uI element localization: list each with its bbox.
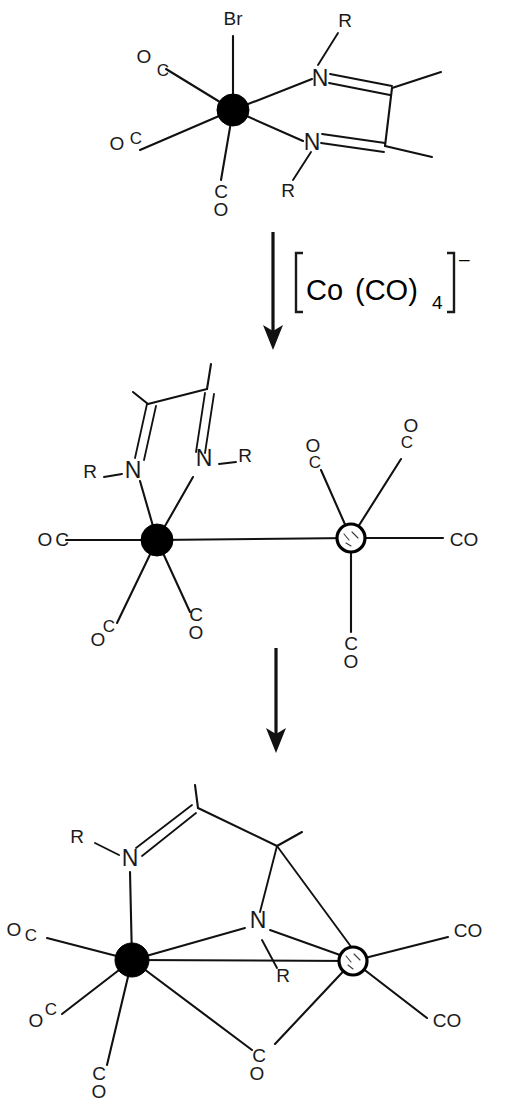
label-n-bridge: N: [250, 907, 267, 933]
bond-mn-bridging-co: [132, 960, 252, 1050]
bond-mn-co-metal-metal: [157, 538, 351, 540]
label-r-bridge: R: [276, 965, 290, 986]
label-mn-co-lower-right-o: O: [189, 622, 204, 643]
bond-c-c-backbone-mid: [148, 389, 207, 404]
label-co-co-right: CO: [450, 529, 479, 550]
reagent-subscript: 4: [432, 292, 443, 313]
arrow-step-1: [263, 232, 283, 350]
structure-top: Br O C O C C O N N R R: [110, 8, 441, 220]
metal-center-cobalt-bottom: [339, 947, 367, 975]
label-n-upper: N: [312, 65, 329, 91]
bond-n-r-upper: [318, 33, 338, 65]
label-mn-co-left-o-bottom: O: [7, 919, 22, 940]
bond-n-c-lower-b: [321, 143, 384, 152]
label-mn-co-left-o: O: [38, 529, 53, 550]
bond-methyl-right-mid: [207, 364, 211, 389]
bond-n-r-right-mid: [219, 462, 236, 464]
arrow-step-2: [266, 648, 286, 753]
label-n-lower: N: [304, 129, 321, 155]
bond-n-c-lower-a: [322, 134, 385, 143]
label-r-top-bottom: R: [70, 826, 84, 847]
label-co-lower-left-c: C: [130, 129, 142, 148]
label-co-upper-left-o: O: [137, 46, 152, 67]
label-co-co-upper-left-c: C: [309, 453, 321, 472]
bond-n-c-top-b: [136, 805, 192, 848]
bond-methyl-lower: [385, 146, 432, 157]
label-mn-co-left-c-bottom: C: [25, 926, 37, 945]
label-mn-co-bottom-o-bottom: O: [92, 1081, 107, 1102]
bond-n-c-top-a: [142, 813, 196, 856]
bond-c-n-bridge: [260, 846, 277, 912]
label-co-co-upper-right-c: C: [401, 433, 413, 452]
metal-center-manganese-mid: [141, 524, 173, 556]
label-mn-co-left-c: C: [55, 529, 69, 550]
label-r-upper: R: [338, 10, 352, 31]
label-mn-co-lower-left-c: C: [103, 617, 115, 636]
label-r-left-mid: R: [83, 461, 97, 482]
bond-n-c-left-a: [135, 404, 147, 458]
bond-n-bridge-cobalt: [270, 930, 340, 955]
bracket-open: [296, 253, 303, 312]
bracket-close: [447, 253, 454, 312]
bond-n-r-lower: [293, 152, 311, 180]
structure-middle: R N N R O C O C C O O C O C CO C O: [38, 364, 479, 672]
reagent-label: Co (CO) 4 –: [296, 248, 470, 313]
structure-bottom: R N N R O C O C C O C O CO CO: [7, 785, 483, 1102]
bond-n-c-left-b: [144, 406, 156, 460]
label-bromide: Br: [224, 8, 244, 29]
bond-n-r-left-mid: [104, 474, 122, 477]
bond-mn-co-metal-metal-bottom: [132, 960, 353, 961]
reagent-formula-part1: Co: [306, 274, 343, 306]
bond-methyl-quaternary: [277, 832, 302, 846]
bond-methyl-left-mid: [133, 392, 148, 404]
bond-c-cobalt: [277, 846, 352, 948]
label-mn-co-lower-left-c-bottom: C: [45, 1000, 57, 1019]
reaction-scheme: Br O C O C C O N N R R Co (CO) 4 –: [0, 0, 508, 1111]
reagent-formula-part2: (CO): [355, 274, 418, 306]
label-bridge-co-o: O: [250, 1063, 265, 1084]
bond-n-bridge-r: [262, 940, 277, 968]
bond-n-c-right-a: [196, 393, 205, 452]
bond-n-r-top-bottom: [95, 843, 119, 855]
metal-center-manganese-bottom: [115, 943, 149, 977]
label-n-top-bottom: N: [122, 845, 139, 871]
bond-n-c-upper-b: [329, 83, 390, 95]
bond-mn-n-bridge: [132, 928, 245, 960]
label-co-co-bottom-o: O: [344, 651, 359, 672]
label-r-right-mid: R: [238, 445, 252, 466]
label-co-co-lower-right-bottom: CO: [433, 1010, 462, 1031]
bond-c-c-backbone-bottom: [198, 808, 277, 846]
bond-methyl-top-bottom: [195, 785, 198, 808]
label-co-lower-left-o: O: [110, 133, 125, 154]
label-r-lower: R: [281, 180, 295, 201]
label-co-bottom-o: O: [214, 199, 229, 220]
label-n-left-mid: N: [125, 457, 142, 483]
label-n-right-mid: N: [196, 445, 213, 471]
metal-center-manganese: [217, 94, 249, 126]
label-co-upper-left-c: C: [157, 61, 169, 80]
metal-center-cobalt-mid: [337, 524, 365, 552]
bond-methyl-upper: [392, 72, 441, 88]
reagent-charge: –: [459, 248, 470, 269]
bond-c-c-backbone: [385, 88, 392, 146]
label-co-co-upper-right-bottom: CO: [454, 920, 483, 941]
label-mn-co-lower-left-o-bottom: O: [29, 1010, 44, 1031]
